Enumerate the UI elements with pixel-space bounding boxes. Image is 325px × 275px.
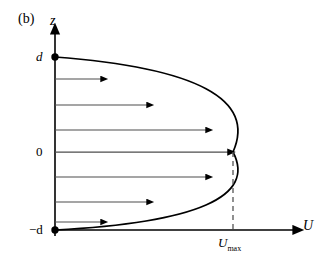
tick-label-d: d: [36, 50, 43, 63]
u-axis-label: U: [303, 219, 313, 233]
z-axis-label: z: [50, 14, 55, 28]
tick-label-zero: 0: [36, 145, 43, 158]
parabola-curve: [55, 57, 238, 230]
bottom-wall-point-marker: [51, 226, 58, 233]
umax-label: Umax: [218, 236, 241, 253]
panel-label: (b): [18, 12, 34, 26]
figure-panel-b: (b) z U d 0 −d Umax: [0, 0, 325, 275]
tick-label-minus-d: −d: [29, 223, 43, 236]
umax-symbol: U: [218, 235, 227, 250]
umax-subscript: max: [227, 244, 241, 253]
velocity-profile-plot: [0, 0, 325, 275]
top-wall-point-marker: [51, 53, 58, 60]
